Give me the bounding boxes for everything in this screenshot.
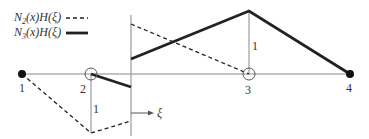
node-3-label: 3 xyxy=(245,83,251,97)
legend-label-n3: N3(x)H(ξ) xyxy=(13,25,61,41)
legend-label-n2: N2(x)H(ξ) xyxy=(13,10,61,26)
legend-item-n3: N3(x)H(ξ) xyxy=(13,25,88,41)
node-1-marker xyxy=(18,70,26,78)
enrichment-diagram: N2(x)H(ξ) N3(x)H(ξ) ξ 1 2 3 4 1 1 xyxy=(0,0,369,139)
node-1-label: 1 xyxy=(19,81,25,95)
node-4-marker xyxy=(346,70,354,78)
n2-curve-right xyxy=(131,24,249,74)
node-2-label: 2 xyxy=(80,82,86,96)
node2-height-label: 1 xyxy=(93,102,99,116)
node3-height-label: 1 xyxy=(252,39,258,53)
xi-axis-arrow: ξ xyxy=(131,106,163,120)
xi-label: ξ xyxy=(157,106,163,120)
xi-arrowhead-icon xyxy=(148,111,154,116)
node-4-label: 4 xyxy=(346,81,352,95)
legend-item-n2: N2(x)H(ξ) xyxy=(13,10,88,26)
n3-curve-right xyxy=(131,11,350,74)
legend: N2(x)H(ξ) N3(x)H(ξ) xyxy=(13,10,88,41)
